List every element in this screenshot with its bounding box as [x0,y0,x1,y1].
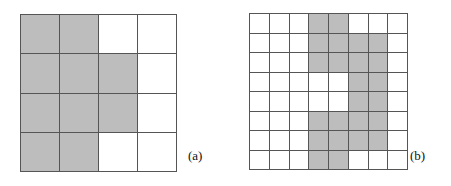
grid-cell [388,112,407,131]
grid-cell [369,92,388,111]
grid-cell [60,54,98,92]
grid-cell [388,34,407,53]
grid-cell [369,112,388,131]
grid-cell [309,53,328,72]
grid-cell [388,53,407,72]
grid-cell [290,131,309,150]
grid-cell [369,131,388,150]
grid-cell [99,94,137,132]
grid-cell [388,14,407,33]
grid-cell [250,131,269,150]
grid-cell [290,53,309,72]
grid-cell [270,14,289,33]
grid-cell [250,53,269,72]
grid-cell [329,14,348,33]
grid-cell [309,14,328,33]
grid-cell [60,133,98,171]
grid-cell [138,54,176,92]
grid-cell [349,112,368,131]
grid-cell [290,92,309,111]
grid-cell [138,15,176,53]
grid-cell [60,15,98,53]
grid-cell [349,14,368,33]
grid-cell [309,34,328,53]
grid-cell [290,151,309,170]
grid-cell [349,34,368,53]
grid-cell [329,92,348,111]
grid-cell [250,112,269,131]
grid-cell [388,131,407,150]
grid-cell [309,151,328,170]
grid-cell [138,94,176,132]
grid-cell [290,112,309,131]
grid-cell [309,92,328,111]
grid-cell [309,112,328,131]
grid-cell [99,133,137,171]
grid-a [20,14,177,172]
grid-cell [60,94,98,132]
grid-cell [349,73,368,92]
grid-cell [21,133,59,171]
grid-cell [369,53,388,72]
grid-cell [21,15,59,53]
grid-cell [250,14,269,33]
grid-cell [270,53,289,72]
grid-cell [329,34,348,53]
grid-cell [369,34,388,53]
grid-cell [250,73,269,92]
figure-panel-b: (b) [225,0,451,186]
grid-cell [349,131,368,150]
grid-cell [290,14,309,33]
grid-cell [250,92,269,111]
figure-label-b: (b) [410,148,425,164]
grid-cell [99,15,137,53]
grid-cell [250,34,269,53]
grid-cell [329,112,348,131]
figure-panel-a: (a) [0,0,225,186]
grid-cell [270,34,289,53]
grid-cell [369,73,388,92]
grid-cell [270,131,289,150]
grid-cell [388,151,407,170]
grid-cell [309,131,328,150]
grid-cell [329,53,348,72]
grid-cell [309,73,328,92]
grid-b [249,13,408,170]
grid-cell [349,53,368,72]
grid-cell [329,73,348,92]
grid-cell [369,14,388,33]
grid-cell [138,133,176,171]
grid-cell [21,54,59,92]
grid-cell [329,151,348,170]
grid-cell [21,94,59,132]
grid-cell [270,151,289,170]
grid-cell [270,92,289,111]
grid-cell [290,73,309,92]
grid-cell [290,34,309,53]
grid-cell [270,112,289,131]
figure-label-a: (a) [188,148,202,164]
grid-cell [349,151,368,170]
grid-cell [270,73,289,92]
grid-cell [369,151,388,170]
grid-cell [388,92,407,111]
grid-cell [329,131,348,150]
grid-cell [388,73,407,92]
grid-cell [349,92,368,111]
grid-cell [99,54,137,92]
grid-cell [250,151,269,170]
